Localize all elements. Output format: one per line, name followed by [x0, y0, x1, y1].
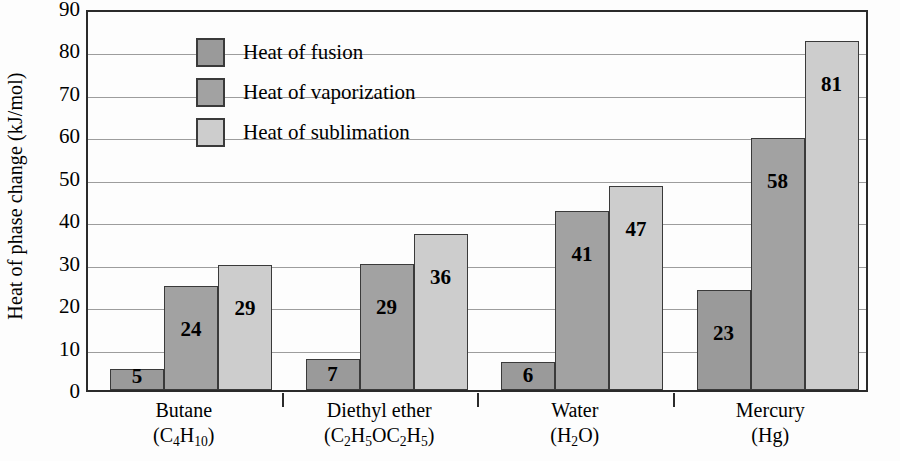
- bar-chart: Heat of phase change (kJ/mol) 9080706050…: [0, 0, 900, 461]
- bar-value-label: 6: [501, 363, 555, 388]
- legend-label: Heat of vaporization: [243, 80, 416, 105]
- x-axis-labels: Butane(C4H10)Diethyl ether(C2H5OC2H5)Wat…: [86, 398, 868, 458]
- y-tick-label: 0: [32, 381, 80, 402]
- y-tick-label: 80: [32, 41, 80, 62]
- legend-swatch-icon: [196, 78, 225, 107]
- bar-value-label: 23: [697, 321, 751, 346]
- bar-value-label: 58: [751, 169, 805, 194]
- x-axis-group-formula: (C4H10): [86, 423, 282, 454]
- legend-item[interactable]: Heat of sublimation: [196, 112, 526, 152]
- x-axis-group-label: Mercury(Hg): [673, 398, 869, 448]
- y-axis-title: Heat of phase change (kJ/mol): [0, 0, 30, 392]
- y-tick-label: 70: [32, 84, 80, 105]
- legend-swatch-icon: [196, 38, 225, 67]
- x-axis-group-formula: (C2H5OC2H5): [282, 423, 478, 454]
- legend-item[interactable]: Heat of fusion: [196, 32, 526, 72]
- bar[interactable]: [414, 234, 468, 390]
- x-axis-group-name: Water: [551, 399, 598, 421]
- x-axis-group-name: Mercury: [736, 399, 805, 421]
- legend-item[interactable]: Heat of vaporization: [196, 72, 526, 112]
- x-axis-group-formula: (H2O): [477, 423, 673, 454]
- y-tick-label: 90: [32, 0, 80, 20]
- x-axis-group-label: Water(H2O): [477, 398, 673, 454]
- bar-group: 235881: [675, 12, 871, 390]
- y-tick-label: 30: [32, 254, 80, 275]
- y-tick-label: 20: [32, 296, 80, 317]
- bar-value-label: 29: [360, 295, 414, 320]
- y-tick-label: 60: [32, 126, 80, 147]
- legend-label: Heat of sublimation: [243, 120, 410, 145]
- y-tick-label: 10: [32, 339, 80, 360]
- bar-value-label: 24: [164, 317, 218, 342]
- x-axis-group-label: Diethyl ether(C2H5OC2H5): [282, 398, 478, 454]
- bar[interactable]: [218, 265, 272, 390]
- x-axis-group-name: Butane: [155, 399, 212, 421]
- y-tick-label: 40: [32, 211, 80, 232]
- bar-value-label: 5: [110, 364, 164, 389]
- bar[interactable]: [360, 264, 414, 390]
- bar-value-label: 36: [414, 265, 468, 290]
- y-axis-tick-labels: 9080706050403020100: [32, 0, 80, 402]
- y-tick-label: 50: [32, 169, 80, 190]
- bar-value-label: 29: [218, 296, 272, 321]
- bar-value-label: 47: [609, 217, 663, 242]
- legend-label: Heat of fusion: [243, 40, 363, 65]
- chart-legend: Heat of fusionHeat of vaporizationHeat o…: [196, 32, 526, 152]
- bar-value-label: 81: [805, 72, 859, 97]
- x-axis-group-label: Butane(C4H10): [86, 398, 282, 454]
- x-axis-group-name: Diethyl ether: [327, 399, 432, 421]
- bar-value-label: 7: [306, 362, 360, 387]
- bar-value-label: 41: [555, 242, 609, 267]
- x-axis-group-formula: (Hg): [673, 423, 869, 448]
- bar[interactable]: [555, 211, 609, 390]
- legend-swatch-icon: [196, 118, 225, 147]
